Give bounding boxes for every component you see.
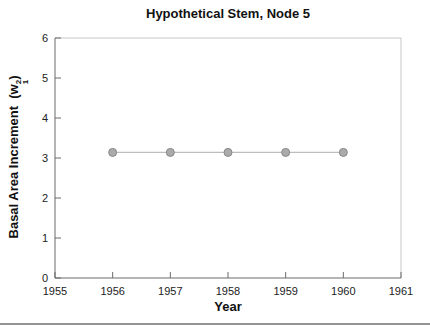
x-tick-label: 1960	[331, 285, 355, 297]
y-tick-label: 0	[42, 272, 48, 284]
x-tick-label: 1955	[43, 285, 67, 297]
y-tick-label: 4	[42, 112, 48, 124]
y-tick-label: 5	[42, 72, 48, 84]
x-axis-label: Year	[55, 299, 401, 314]
data-point	[339, 148, 347, 156]
data-point	[166, 148, 174, 156]
x-tick-label: 1961	[389, 285, 413, 297]
y-tick-label: 2	[42, 192, 48, 204]
figure-canvas: Hypothetical Stem, Node 5 Basal Area Inc…	[0, 0, 430, 333]
data-point	[224, 148, 232, 156]
y-tick-label: 6	[42, 32, 48, 44]
x-tick-label: 1957	[158, 285, 182, 297]
x-tick-label: 1956	[100, 285, 124, 297]
x-tick-label: 1959	[273, 285, 297, 297]
data-point	[109, 148, 117, 156]
bottom-separator	[0, 323, 430, 325]
x-tick-label: 1958	[216, 285, 240, 297]
y-tick-label: 1	[42, 232, 48, 244]
y-tick-label: 3	[42, 152, 48, 164]
plot-area: 19551956195719581959196019610123456	[0, 0, 430, 333]
data-point	[282, 148, 290, 156]
